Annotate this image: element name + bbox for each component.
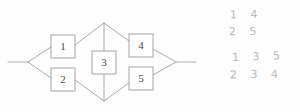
edge-left-to-node1 (28, 47, 51, 62)
edge-left-to-node2 (28, 62, 51, 78)
edge-bottom-to-node5 (104, 83, 129, 101)
path-list-row-3: 1 3 5 (232, 49, 285, 64)
node-4-label: 4 (138, 39, 144, 51)
node-3[interactable]: 3 (92, 51, 116, 74)
edge-node2-to-bottom (75, 80, 104, 101)
diagram-canvas: 1 2 3 4 5 1 4 2 5 1 3 5 2 3 4 (0, 0, 300, 112)
edge-node4-to-right (153, 49, 176, 62)
node-2[interactable]: 2 (51, 68, 75, 91)
path-list-row-1: 1 4 (230, 8, 263, 22)
node-2-label: 2 (60, 73, 66, 85)
path-list-row-4: 2 3 4 (230, 68, 283, 82)
edge-node5-to-right (153, 62, 176, 75)
node-3-label: 3 (101, 56, 107, 68)
edge-node1-to-top (75, 23, 104, 45)
path-list-row-2: 2 5 (229, 25, 262, 39)
edge-top-to-node4 (104, 23, 129, 41)
path-list-annotations: 1 4 2 5 1 3 5 2 3 4 (228, 4, 298, 99)
node-1[interactable]: 1 (51, 35, 75, 58)
node-1-label: 1 (60, 40, 66, 52)
node-5-label: 5 (138, 72, 144, 84)
node-4[interactable]: 4 (129, 34, 153, 57)
node-5[interactable]: 5 (129, 67, 153, 90)
